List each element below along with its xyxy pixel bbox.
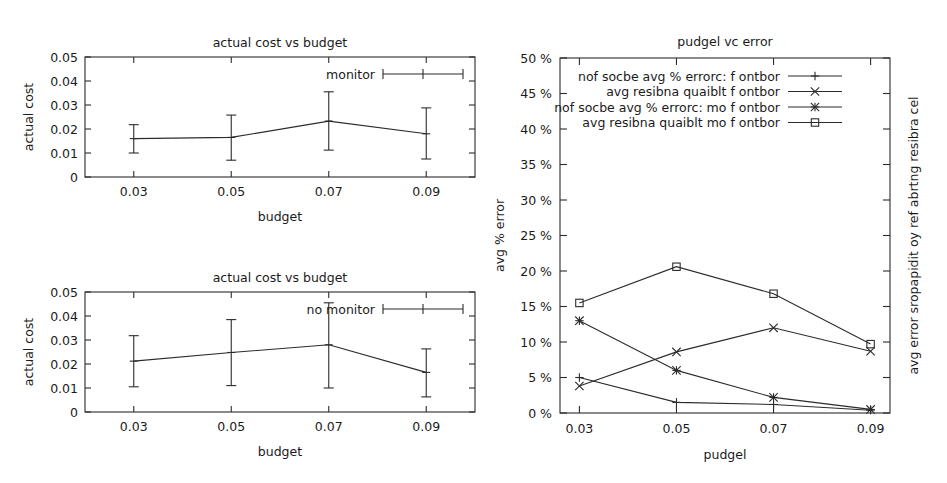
pudgel-marker-star — [672, 366, 680, 374]
pudgel-marker-square — [576, 299, 583, 306]
pudgel-series-line-3 — [579, 267, 870, 344]
monitor-title: actual cost vs budget — [213, 35, 348, 50]
monitor-ytick-label: 0.02 — [50, 122, 78, 137]
pudgel-legend-key-marker-plus — [811, 72, 819, 80]
pudgel-yaxis-label: avg % error — [492, 198, 507, 272]
monitor-panel: actual cost vs budget00.010.020.030.040.… — [21, 35, 475, 224]
pudgel-series-line-2 — [579, 321, 870, 410]
pudgel-ytick-label: 30 % — [520, 193, 552, 208]
pudgel-title: pudgel vc error — [677, 34, 773, 49]
no-monitor-yaxis-label: actual cost — [21, 318, 36, 386]
no-monitor-legend-label: no monitor — [307, 302, 376, 317]
no-monitor-series-line — [134, 345, 426, 373]
pudgel-marker-star — [575, 317, 583, 325]
no-monitor-ytick-label: 0.01 — [50, 381, 78, 396]
plot-svg: actual cost vs budget00.010.020.030.040.… — [0, 0, 947, 483]
monitor-legend-label: monitor — [326, 67, 376, 82]
monitor-errorbar — [129, 125, 139, 153]
no-monitor-panel: actual cost vs budget00.010.020.030.040.… — [21, 270, 475, 459]
no-monitor-xtick-label: 0.05 — [217, 419, 245, 434]
monitor-xaxis-label: budget — [258, 209, 302, 224]
pudgel-legend-label-1: avg resibna quaiblt f ontbor — [606, 84, 781, 99]
figure-canvas: actual cost vs budget00.010.020.030.040.… — [0, 0, 947, 483]
no-monitor-legend: no monitor — [307, 302, 463, 317]
pudgel-legend-label-3: avg resibna quaiblt mo f ontbor — [582, 115, 780, 130]
monitor-errorbar — [421, 108, 431, 159]
pudgel-legend-label-0: nof socbe avg % errorc: f ontbor — [578, 69, 781, 84]
pudgel-marker-cross — [575, 382, 583, 390]
monitor-errorbar — [226, 115, 236, 160]
pudgel-xtick-label: 0.03 — [565, 421, 593, 436]
pudgel-legend-key-marker-star — [811, 103, 819, 111]
monitor-ytick-label: 0 — [70, 170, 78, 185]
monitor-legend: monitor — [326, 67, 463, 82]
no-monitor-ytick-label: 0.02 — [50, 357, 78, 372]
pudgel-series-line-0 — [579, 378, 870, 411]
pudgel-ytick-label: 20 % — [520, 264, 552, 279]
pudgel-ytick-label: 15 % — [520, 299, 552, 314]
pudgel-marker-cross — [769, 324, 777, 332]
pudgel-ytick-label: 10 % — [520, 335, 552, 350]
monitor-xtick-label: 0.05 — [217, 184, 245, 199]
monitor-series-line — [134, 121, 426, 139]
pudgel-marker-plus — [672, 398, 680, 406]
no-monitor-ytick-label: 0.04 — [50, 309, 78, 324]
pudgel-legend: nof socbe avg % errorc: f ontboravg resi… — [554, 69, 842, 131]
pudgel-marker-cross — [672, 348, 680, 356]
pudgel-xtick-label: 0.09 — [857, 421, 885, 436]
pudgel-yaxis-label-right: avg error sropapidit oy ref abrtng resib… — [906, 96, 921, 374]
no-monitor-ytick-label: 0 — [70, 405, 78, 420]
no-monitor-ytick-label: 0.03 — [50, 333, 78, 348]
pudgel-series-line-1 — [579, 328, 870, 386]
monitor-xtick-label: 0.07 — [315, 184, 343, 199]
no-monitor-xtick-label: 0.09 — [412, 419, 440, 434]
pudgel-ytick-label: 40 % — [520, 122, 552, 137]
no-monitor-errorbar — [226, 320, 236, 386]
no-monitor-xtick-label: 0.03 — [120, 419, 148, 434]
no-monitor-errorbar — [421, 349, 431, 397]
monitor-yaxis-label: actual cost — [21, 83, 36, 151]
pudgel-legend-label-2: nof socbe avg % errorc: mo f ontbor — [554, 100, 781, 115]
no-monitor-xaxis-label: budget — [258, 444, 302, 459]
monitor-xtick-label: 0.09 — [412, 184, 440, 199]
no-monitor-plot-frame — [85, 292, 475, 412]
pudgel-ytick-label: 25 % — [520, 228, 552, 243]
monitor-ytick-label: 0.05 — [50, 50, 78, 65]
pudgel-ytick-label: 45 % — [520, 86, 552, 101]
pudgel-marker-square — [867, 340, 874, 347]
monitor-plot-frame — [85, 57, 475, 177]
pudgel-ytick-label: 35 % — [520, 157, 552, 172]
pudgel-ytick-label: 0 % — [528, 406, 552, 421]
pudgel-ytick-label: 5 % — [528, 370, 552, 385]
monitor-errorbar — [324, 92, 334, 150]
pudgel-panel: pudgel vc error0 %5 %10 %15 %20 %25 %30 … — [492, 34, 921, 462]
pudgel-ytick-label: 50 % — [520, 51, 552, 66]
pudgel-xtick-label: 0.05 — [663, 421, 691, 436]
no-monitor-xtick-label: 0.07 — [315, 419, 343, 434]
no-monitor-ytick-label: 0.05 — [50, 285, 78, 300]
pudgel-marker-plus — [575, 373, 583, 381]
no-monitor-errorbar — [129, 336, 139, 387]
pudgel-xaxis-label: pudgel — [704, 447, 747, 462]
monitor-xtick-label: 0.03 — [120, 184, 148, 199]
no-monitor-title: actual cost vs budget — [213, 270, 348, 285]
monitor-ytick-label: 0.03 — [50, 98, 78, 113]
pudgel-marker-star — [769, 393, 777, 401]
pudgel-marker-star — [866, 405, 874, 413]
monitor-ytick-label: 0.01 — [50, 146, 78, 161]
pudgel-xtick-label: 0.07 — [760, 421, 788, 436]
monitor-ytick-label: 0.04 — [50, 74, 78, 89]
